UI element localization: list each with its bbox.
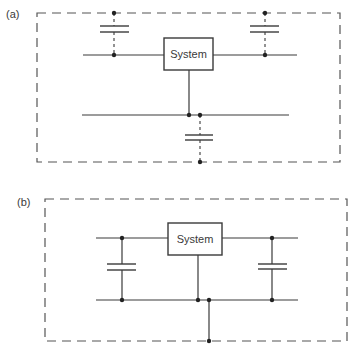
diagram-canvas: (a) System (0, 0, 359, 349)
panel-b-label: (b) (17, 196, 30, 208)
panel-b-ground-lead (196, 298, 211, 343)
panel-a-label: (a) (6, 8, 19, 20)
panel-a-system-box: System (164, 38, 213, 70)
panel-a-capacitor-left (100, 11, 129, 57)
panel-a-capacitor-bottom (185, 113, 213, 164)
panel-a: (a) System (6, 8, 340, 164)
panel-b-capacitor-left (107, 236, 136, 302)
panel-b-system-label: System (177, 233, 214, 245)
panel-b-boundary (45, 199, 347, 341)
panel-a-capacitor-right (250, 11, 279, 57)
panel-b: (b) System (17, 196, 347, 343)
panel-a-system-label: System (170, 48, 207, 60)
panel-b-capacitor-right (258, 236, 287, 302)
panel-b-system-box: System (168, 223, 222, 255)
